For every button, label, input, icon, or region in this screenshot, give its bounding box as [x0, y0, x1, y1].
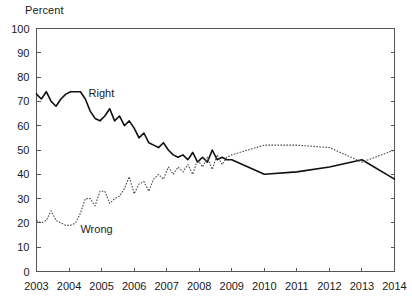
x-tick-label: 2009 [220, 280, 244, 292]
line-chart-plot: 0102030405060708090100 20032004200520062… [0, 0, 412, 304]
x-tick-label: 2003 [24, 280, 48, 292]
x-tick-label: 2005 [89, 280, 113, 292]
x-tick-label: 2012 [317, 280, 341, 292]
y-tick-label: 20 [17, 217, 29, 229]
y-tick-label: 10 [17, 241, 29, 253]
series-annotation-wrong: Wrong [80, 223, 112, 235]
y-tick-label: 0 [23, 266, 29, 278]
y-axis-ticks: 0102030405060708090100 [11, 23, 394, 278]
series-line-right [37, 92, 395, 179]
y-tick-label: 60 [17, 120, 29, 132]
x-tick-label: 2007 [154, 280, 178, 292]
y-tick-label: 50 [17, 144, 29, 156]
plot-frame [37, 29, 395, 272]
x-tick-label: 2014 [382, 280, 406, 292]
y-tick-label: 70 [17, 95, 29, 107]
y-tick-label: 80 [17, 71, 29, 83]
x-tick-label: 2008 [187, 280, 211, 292]
x-tick-label: 2010 [252, 280, 276, 292]
y-tick-label: 40 [17, 168, 29, 180]
y-tick-label: 30 [17, 193, 29, 205]
y-tick-label: 90 [17, 47, 29, 59]
x-tick-label: 2013 [350, 280, 374, 292]
x-tick-label: 2004 [57, 280, 81, 292]
series-annotation-right: Right [89, 87, 115, 99]
chart-container: Percent 0102030405060708090100 200320042… [0, 0, 412, 304]
data-series-group [37, 92, 395, 226]
x-tick-label: 2011 [285, 280, 309, 292]
plot-frame-box [37, 29, 395, 272]
y-tick-label: 100 [11, 23, 29, 35]
x-tick-label: 2006 [122, 280, 146, 292]
